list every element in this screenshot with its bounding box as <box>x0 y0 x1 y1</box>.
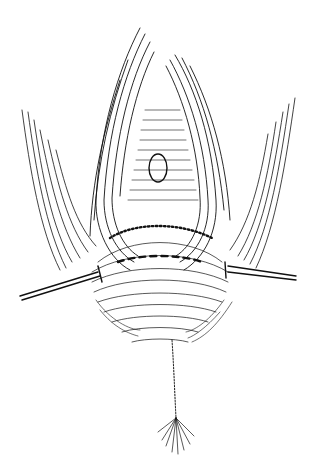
perineal-raphe <box>172 340 176 418</box>
incision-dashed-line <box>118 256 202 262</box>
opening <box>149 154 167 182</box>
anal-tuft <box>158 418 194 454</box>
left-outer-fold <box>22 110 96 270</box>
left-labium <box>90 28 154 270</box>
right-retractor-hook <box>225 262 296 280</box>
right-outer-fold <box>230 98 295 268</box>
tissue-dome <box>92 243 228 343</box>
left-retractor-hook <box>20 266 102 300</box>
right-labium <box>166 55 230 270</box>
vestibule <box>128 110 198 200</box>
illustration-canvas <box>0 0 313 471</box>
surgical-illustration <box>0 0 313 471</box>
